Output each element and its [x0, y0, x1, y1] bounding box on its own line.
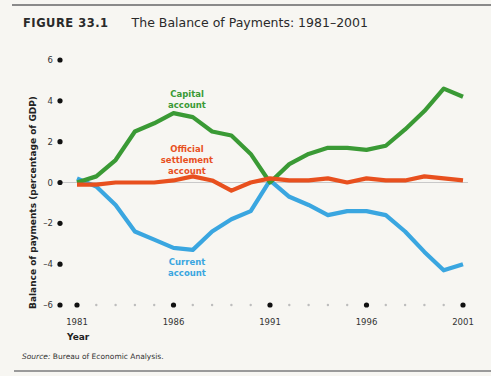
y-tick-mark: [57, 98, 62, 103]
y-tick-mark: [57, 262, 62, 267]
x-minor-tick: [307, 304, 309, 306]
x-minor-tick: [288, 304, 290, 306]
series-line-capital-account: [77, 89, 463, 183]
x-minor-tick: [211, 304, 213, 306]
y-tick-mark: [57, 139, 62, 144]
x-axis-title: Year: [66, 332, 90, 342]
x-major-tick: [364, 302, 369, 307]
x-major-tick: [460, 302, 465, 307]
source-note: Source: Bureau of Economic Analysis.: [22, 352, 164, 361]
bottom-rule: [14, 370, 491, 372]
y-tick-label: 0: [48, 178, 53, 188]
x-minor-tick: [346, 304, 348, 306]
y-axis: 6420–2–4–6: [43, 55, 62, 310]
x-minor-tick: [404, 304, 406, 306]
y-axis-title: Balance of payments (percentage of GDP): [28, 96, 38, 309]
x-minor-tick: [134, 304, 136, 306]
x-tick-label: 1986: [163, 317, 185, 327]
balance-of-payments-chart: 6420–2–4–6 19811986199119962001 Capitala…: [0, 0, 491, 376]
series-label-capital-account: Capitalaccount: [168, 89, 206, 110]
x-minor-tick: [423, 304, 425, 306]
series-line-current-account: [77, 178, 463, 270]
source-prefix: Source:: [22, 352, 50, 361]
x-minor-tick: [385, 304, 387, 306]
x-major-tick: [267, 302, 272, 307]
x-minor-tick: [250, 304, 252, 306]
y-tick-label: 2: [48, 137, 53, 147]
series-label-official-settlement-account: Officialsettlementaccount: [161, 144, 213, 176]
x-minor-tick: [95, 304, 97, 306]
y-tick-label: 6: [48, 55, 53, 65]
y-tick-mark: [57, 180, 62, 185]
source-text: Bureau of Economic Analysis.: [50, 352, 163, 361]
x-minor-tick: [114, 304, 116, 306]
y-tick-label: –4: [43, 259, 53, 269]
series-lines: [77, 89, 463, 271]
x-tick-label: 2001: [452, 317, 474, 327]
x-tick-label: 1996: [356, 317, 378, 327]
x-axis: 19811986199119962001: [66, 302, 474, 327]
x-minor-tick: [153, 304, 155, 306]
y-tick-mark: [57, 57, 62, 62]
y-tick-mark: [57, 221, 62, 226]
x-minor-tick: [192, 304, 194, 306]
x-major-tick: [171, 302, 176, 307]
x-tick-label: 1981: [66, 317, 88, 327]
y-tick-label: –6: [43, 300, 53, 310]
y-tick-mark: [57, 302, 62, 307]
series-label-current-account: Currentaccount: [168, 257, 206, 278]
y-tick-label: –2: [43, 218, 53, 228]
x-major-tick: [74, 302, 79, 307]
x-minor-tick: [443, 304, 445, 306]
x-minor-tick: [230, 304, 232, 306]
y-tick-label: 4: [48, 96, 53, 106]
x-minor-tick: [327, 304, 329, 306]
x-tick-label: 1991: [259, 317, 281, 327]
